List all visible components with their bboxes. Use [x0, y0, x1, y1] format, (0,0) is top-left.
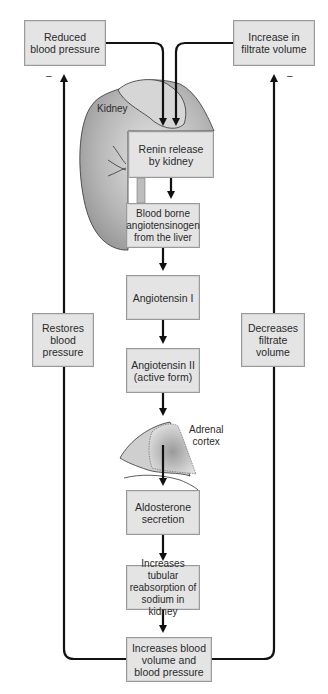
- renin-release-box: Renin release by kidney: [128, 131, 214, 178]
- blood-volume-label: Increases blood volume and blood pressur…: [132, 642, 206, 678]
- angiotensin-1-label: Angiotensin I: [133, 292, 194, 304]
- decreases-filtrate-volume-label: Decreases filtrate volume: [248, 322, 298, 358]
- tubular-reabsorption-box: Increases tubular reabsorption of sodium…: [126, 565, 200, 610]
- restores-blood-pressure-box: Restores blood pressure: [32, 313, 94, 367]
- adrenal-illustration: [120, 422, 198, 490]
- angiotensinogen-box: Blood borne angiotensinogen from the liv…: [126, 203, 200, 248]
- negative-feedback-sign-right: –: [287, 70, 293, 81]
- renin-release-label: Renin release by kidney: [139, 143, 204, 167]
- kidney-label: Kidney: [97, 103, 128, 114]
- increase-filtrate-volume-box: Increase in filtrate volume: [233, 20, 315, 66]
- blood-volume-box: Increases blood volume and blood pressur…: [126, 637, 212, 682]
- negative-feedback-sign-left: –: [46, 70, 52, 81]
- decreases-filtrate-volume-box: Decreases filtrate volume: [241, 313, 305, 367]
- angiotensinogen-label: Blood borne angiotensinogen from the liv…: [126, 208, 199, 244]
- angiotensin-1-box: Angiotensin I: [126, 275, 200, 320]
- aldosterone-label: Aldosterone secretion: [135, 501, 191, 525]
- aldosterone-box: Aldosterone secretion: [126, 490, 200, 535]
- reduced-blood-pressure-label: Reduced blood pressure: [30, 31, 99, 55]
- angiotensin-2-box: Angiotensin II (active form): [126, 348, 200, 393]
- increase-filtrate-volume-label: Increase in filtrate volume: [241, 31, 306, 55]
- reduced-blood-pressure-box: Reduced blood pressure: [24, 20, 106, 66]
- tubular-reabsorption-label: Increases tubular reabsorption of sodium…: [127, 558, 199, 618]
- restores-blood-pressure-label: Restores blood pressure: [42, 322, 84, 358]
- angiotensin-2-label: Angiotensin II (active form): [131, 359, 195, 383]
- adrenal-cortex-label: Adrenal cortex: [189, 424, 223, 448]
